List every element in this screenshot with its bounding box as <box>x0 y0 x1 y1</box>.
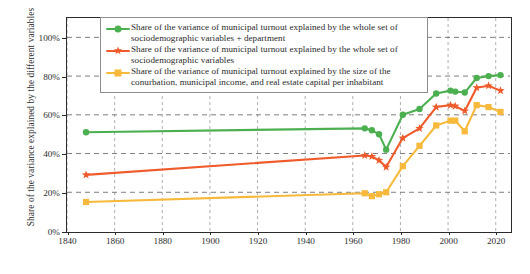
y-tick-label: 40% <box>20 149 60 159</box>
x-tick-label: 1920 <box>236 236 280 246</box>
y-tick-label: 60% <box>20 110 60 120</box>
x-tick-label: 1880 <box>141 236 185 246</box>
legend-label-2: Share of the variance of municipal turno… <box>131 66 422 87</box>
chart-container: Share of the variance explained by the d… <box>0 0 530 274</box>
square-marker-icon <box>105 67 131 78</box>
x-tick-label: 2020 <box>474 236 518 246</box>
chart-legend: Share of the variance of municipal turno… <box>100 17 428 93</box>
legend-label-1: Share of the variance of municipal turno… <box>131 44 422 65</box>
legend-item-0[interactable]: Share of the variance of municipal turno… <box>105 22 422 43</box>
legend-label-0: Share of the variance of municipal turno… <box>131 22 422 43</box>
y-tick-label: 0% <box>20 227 60 237</box>
x-tick-label: 2000 <box>427 236 471 246</box>
circle-marker-icon <box>105 23 131 34</box>
y-tick-label: 20% <box>20 188 60 198</box>
y-tick-label: 100% <box>20 33 60 43</box>
legend-item-2[interactable]: Share of the variance of municipal turno… <box>105 66 422 87</box>
x-tick-label: 1940 <box>284 236 328 246</box>
x-tick-label: 1860 <box>93 236 137 246</box>
star-marker-icon <box>105 45 131 56</box>
x-tick-label: 1900 <box>188 236 232 246</box>
x-tick-label: 1840 <box>46 236 90 246</box>
x-tick-label: 1960 <box>331 236 375 246</box>
y-tick-label: 80% <box>20 72 60 82</box>
x-tick-label: 1980 <box>379 236 423 246</box>
legend-item-1[interactable]: Share of the variance of municipal turno… <box>105 44 422 65</box>
